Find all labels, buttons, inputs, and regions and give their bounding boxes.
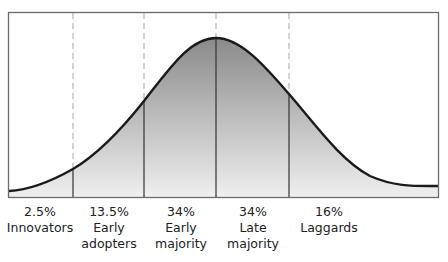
segment-label-innovators: 2.5% Innovators	[0, 204, 80, 236]
name-late-majority-line1: Late	[213, 220, 293, 236]
name-early-majority-line2: majority	[141, 236, 221, 252]
name-laggards: Laggards	[289, 220, 369, 236]
name-early-adopters-line1: Early	[69, 220, 149, 236]
segment-label-late-majority: 34% Late majority	[213, 204, 293, 252]
percent-early-majority: 34%	[141, 204, 221, 220]
name-late-majority-line2: majority	[213, 236, 293, 252]
segment-label-early-adopters: 13.5% Early adopters	[69, 204, 149, 252]
segment-label-laggards: 16% Laggards	[289, 204, 369, 236]
percent-early-adopters: 13.5%	[69, 204, 149, 220]
name-early-adopters-line2: adopters	[69, 236, 149, 252]
percent-innovators: 2.5%	[0, 204, 80, 220]
segment-label-early-majority: 34% Early majority	[141, 204, 221, 252]
percent-laggards: 16%	[289, 204, 369, 220]
percent-late-majority: 34%	[213, 204, 293, 220]
name-early-majority-line1: Early	[141, 220, 221, 236]
name-innovators: Innovators	[0, 220, 80, 236]
